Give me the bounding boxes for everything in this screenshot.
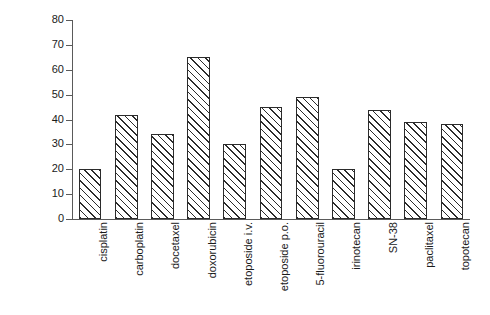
x-axis-tick-label: paclitaxel: [422, 222, 436, 314]
y-axis-tick-label: 70: [38, 39, 64, 50]
bar: [151, 134, 174, 219]
bar: [79, 169, 102, 219]
y-axis-tick-label: 30: [38, 138, 64, 149]
bar: [260, 107, 283, 219]
x-axis-tick-label: topotecan: [458, 222, 472, 314]
bar: [115, 115, 138, 219]
x-axis-tick-label: etoposide i.v.: [241, 222, 255, 314]
bar: [296, 97, 319, 219]
x-axis-tick-label: irinotecan: [349, 222, 363, 314]
bar: [223, 144, 246, 219]
bar: [404, 122, 427, 219]
y-axis-tick: [66, 219, 72, 220]
x-axis-tick-label: docetaxel: [168, 222, 182, 314]
bar: [441, 124, 464, 219]
x-axis-line: [72, 219, 470, 220]
bar-chart: % C.V. in clearance 01020304050607080 ci…: [0, 0, 490, 315]
bar: [332, 169, 355, 219]
y-axis-tick-label: 10: [38, 188, 64, 199]
x-axis-tick-label: SN-38: [386, 222, 400, 314]
bar: [368, 110, 391, 219]
y-axis-tick-label: 80: [38, 14, 64, 25]
y-axis-tick-label: 60: [38, 64, 64, 75]
y-axis-tick-label: 20: [38, 163, 64, 174]
bar-series: [72, 20, 470, 219]
y-axis-tick-label: 40: [38, 114, 64, 125]
x-axis-tick-label: etoposide p.o.: [277, 222, 291, 314]
x-axis-tick-label: carboplatin: [132, 222, 146, 314]
y-axis-tick-label: 0: [38, 213, 64, 224]
x-axis-tick-label: doxorubicin: [205, 222, 219, 314]
x-axis-tick-labels: cisplatincarboplatindocetaxeldoxorubicin…: [72, 222, 470, 314]
bar: [187, 57, 210, 219]
x-axis-tick-label: cisplatin: [96, 222, 110, 314]
y-axis-tick-label: 50: [38, 89, 64, 100]
x-axis-tick-label: 5-fluorouracil: [313, 222, 327, 314]
